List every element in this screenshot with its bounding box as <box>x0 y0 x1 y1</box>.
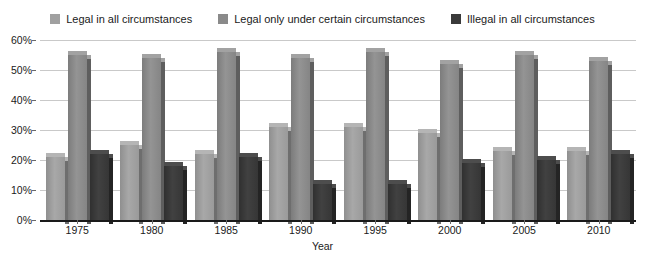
bar[interactable] <box>90 154 109 220</box>
x-axis-tick-label: 1980 <box>115 224 190 240</box>
bar[interactable] <box>440 64 459 220</box>
bar-group <box>40 40 115 220</box>
bar-face <box>90 154 109 220</box>
bar-top-3d <box>183 166 187 170</box>
legend-item[interactable]: Legal in all circumstances <box>50 14 192 25</box>
bar[interactable] <box>418 133 437 220</box>
legend-item[interactable]: Legal only under certain circumstances <box>218 14 425 25</box>
bar-group-bars <box>562 40 637 220</box>
y-axis-tick-mark <box>32 70 36 71</box>
y-axis-tick-label: 10% <box>11 184 32 196</box>
bar-group-bars <box>264 40 339 220</box>
bar-top-face-3d <box>217 48 236 52</box>
bar-face <box>440 64 459 220</box>
bar-top-face-3d <box>418 129 437 133</box>
bar-top-face-3d <box>611 150 630 154</box>
bar-top-face-3d <box>142 54 161 58</box>
y-axis-tick-label: 30% <box>11 124 32 136</box>
x-axis-tick-label: 1975 <box>40 224 115 240</box>
bar[interactable] <box>164 166 183 220</box>
bar[interactable] <box>366 52 385 220</box>
bar-face <box>493 151 512 220</box>
bar[interactable] <box>589 61 608 220</box>
legend-swatch-icon <box>50 14 60 24</box>
bar-side-3d <box>630 158 634 224</box>
y-axis-tick-mark <box>32 130 36 131</box>
bar-side-3d <box>109 158 113 224</box>
bar-side-3d <box>258 161 262 224</box>
bar-top-3d <box>407 184 411 188</box>
bar-top-3d <box>385 52 389 56</box>
bar[interactable] <box>195 154 214 220</box>
bar-group-bars <box>115 40 190 220</box>
bar-top-face-3d <box>589 57 608 61</box>
y-axis-tick-mark <box>32 40 36 41</box>
bar-face <box>195 154 214 220</box>
legend-item-label: Legal only under certain circumstances <box>234 14 425 25</box>
bar[interactable] <box>46 157 65 220</box>
x-axis-tick-mark <box>524 220 525 224</box>
x-axis-tick-mark <box>301 220 302 224</box>
bar[interactable] <box>291 58 310 220</box>
bar-top-face-3d <box>164 162 183 166</box>
bar-side-3d <box>556 164 560 224</box>
bar-top-face-3d <box>313 180 332 184</box>
bar-face <box>68 55 87 220</box>
bar-side-3d <box>183 170 187 224</box>
x-axis-tick-mark <box>450 220 451 224</box>
bar-top-face-3d <box>239 153 258 157</box>
bar-top-face-3d <box>90 150 109 154</box>
y-axis-tick-mark <box>32 100 36 101</box>
x-axis-tick-label: 1990 <box>264 224 339 240</box>
bar[interactable] <box>269 127 288 220</box>
bar[interactable] <box>515 55 534 220</box>
x-axis-tick-label: 2005 <box>487 224 562 240</box>
x-axis-tick-label: 1985 <box>189 224 264 240</box>
legend-item-label: Illegal in all circumstances <box>467 14 595 25</box>
x-axis-line <box>40 220 636 222</box>
bar-group <box>189 40 264 220</box>
legend-swatch-icon <box>451 14 461 24</box>
bar[interactable] <box>120 145 139 220</box>
bar-top-face-3d <box>291 54 310 58</box>
bar[interactable] <box>462 163 481 220</box>
bar-top-3d <box>630 154 634 158</box>
bar-top-3d <box>459 64 463 68</box>
bar[interactable] <box>239 157 258 220</box>
bar-top-face-3d <box>567 147 586 151</box>
x-axis-tick-mark <box>375 220 376 224</box>
y-axis-tick-label: 20% <box>11 154 32 166</box>
bar[interactable] <box>537 160 556 220</box>
bar-face <box>611 154 630 220</box>
bar-top-face-3d <box>344 123 363 127</box>
bar-groups <box>40 40 636 220</box>
bar-group <box>487 40 562 220</box>
bar-face <box>418 133 437 220</box>
bar-group-bars <box>413 40 488 220</box>
bar-top-face-3d <box>515 51 534 55</box>
bar-group <box>115 40 190 220</box>
bar[interactable] <box>567 151 586 220</box>
bar[interactable] <box>217 52 236 220</box>
y-axis-tick-mark <box>32 190 36 191</box>
bar-group <box>338 40 413 220</box>
bar[interactable] <box>68 55 87 220</box>
bar[interactable] <box>344 127 363 220</box>
bar-top-3d <box>481 163 485 167</box>
bar-top-face-3d <box>46 153 65 157</box>
bar-face <box>567 151 586 220</box>
bar-face <box>269 127 288 220</box>
x-axis-tick-label: 2000 <box>413 224 488 240</box>
bar[interactable] <box>493 151 512 220</box>
y-axis-tick-label: 50% <box>11 64 32 76</box>
bar[interactable] <box>388 184 407 220</box>
bar-top-face-3d <box>537 156 556 160</box>
bar-top-3d <box>236 52 240 56</box>
bar-face <box>313 184 332 220</box>
bar[interactable] <box>313 184 332 220</box>
x-axis-tick-label: 2010 <box>562 224 637 240</box>
bar[interactable] <box>611 154 630 220</box>
bar[interactable] <box>142 58 161 220</box>
legend-item[interactable]: Illegal in all circumstances <box>451 14 595 25</box>
bar-top-face-3d <box>195 150 214 154</box>
